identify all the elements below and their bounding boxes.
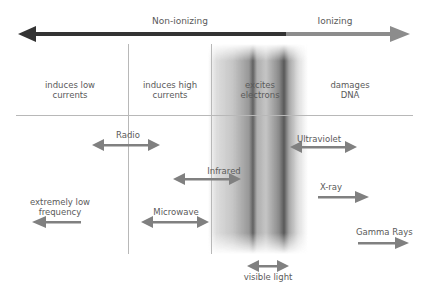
elf-label: extremely low frequency	[20, 197, 100, 217]
elf-line: extremely low	[20, 197, 100, 207]
gamma-arrow-icon	[358, 237, 409, 249]
xray-label: X-ray	[316, 182, 346, 192]
visible-light-arrow-icon	[247, 260, 289, 272]
visible-light-label: visible light	[240, 272, 296, 282]
band-arrows	[0, 0, 427, 294]
elf-arrow-icon	[32, 216, 81, 228]
elf-line: frequency	[20, 207, 100, 217]
microwave-label: Microwave	[146, 207, 206, 217]
xray-arrow-icon	[318, 191, 369, 203]
radio-label: Radio	[108, 130, 148, 140]
infrared-label: Infrared	[204, 166, 244, 176]
microwave-arrow-icon	[141, 216, 209, 228]
gamma-label: Gamma Rays	[356, 227, 412, 237]
radio-arrow-icon	[92, 139, 160, 151]
ultraviolet-label: Ultraviolet	[294, 134, 344, 144]
